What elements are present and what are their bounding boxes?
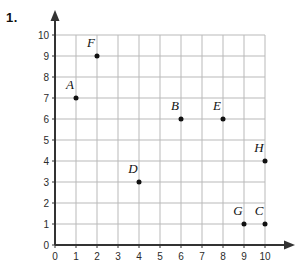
x-axis-tick-label: 8 xyxy=(220,251,226,262)
point-label: A xyxy=(66,77,74,93)
x-axis-tick-label: 7 xyxy=(199,251,205,262)
point-label: C xyxy=(255,203,264,219)
y-axis-tick-label: 4 xyxy=(43,156,49,167)
point-label: B xyxy=(171,98,179,114)
y-axis-tick-label: 5 xyxy=(43,135,49,146)
x-axis-tick-label: 1 xyxy=(73,251,79,262)
y-axis-tick-label: 6 xyxy=(43,114,49,125)
x-axis-tick-label: 0 xyxy=(52,251,58,262)
point-label: H xyxy=(254,140,263,156)
y-axis-tick-label: 8 xyxy=(43,72,49,83)
y-axis-tick-label: 1 xyxy=(43,219,49,230)
point-label: E xyxy=(213,98,221,114)
y-axis-tick-label: 3 xyxy=(43,177,49,188)
plotted-point[interactable] xyxy=(242,222,247,227)
point-label: F xyxy=(87,35,95,51)
x-axis-tick-label: 9 xyxy=(241,251,247,262)
y-axis-tick-label: 9 xyxy=(43,51,49,62)
point-label: D xyxy=(128,161,137,177)
plotted-point[interactable] xyxy=(179,117,184,122)
x-axis-tick-label: 3 xyxy=(115,251,121,262)
x-axis-tick-label: 6 xyxy=(178,251,184,262)
x-axis-tick-label: 4 xyxy=(136,251,142,262)
x-axis-tick-label: 10 xyxy=(259,251,270,262)
x-axis-arrowhead-icon xyxy=(284,241,295,250)
plotted-point[interactable] xyxy=(263,222,268,227)
point-label: G xyxy=(233,203,242,219)
plotted-point[interactable] xyxy=(137,180,142,185)
x-axis-tick-label: 2 xyxy=(94,251,100,262)
plotted-point[interactable] xyxy=(221,117,226,122)
y-axis-tick-label: 10 xyxy=(38,30,49,41)
y-axis-tick-label: 0 xyxy=(43,240,49,251)
plotted-point[interactable] xyxy=(74,96,79,101)
x-axis-tick-label: 5 xyxy=(157,251,163,262)
plotted-point[interactable] xyxy=(95,54,100,59)
coordinate-grid-figure: 1. 012345678910012345678910 AFDBEGCH xyxy=(0,0,298,276)
y-axis-tick-label: 7 xyxy=(43,93,49,104)
y-axis-arrowhead-icon xyxy=(51,10,60,21)
plotted-point[interactable] xyxy=(263,159,268,164)
y-axis-tick-label: 2 xyxy=(43,198,49,209)
